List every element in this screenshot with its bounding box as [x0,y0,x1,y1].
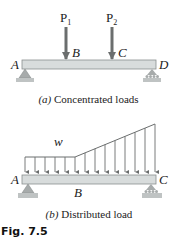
beam-figure: P1 P2 B C A D (a) Concentr [0,0,177,239]
load-p1: P1 [60,10,71,60]
point-d-label: D [158,57,169,72]
point-a-label: A [10,57,19,72]
caption-b: (b) Distributed load [46,208,133,221]
pin-support-icon [18,184,38,198]
arrowhead-icon [62,52,70,60]
point-a-label: A [10,172,19,187]
distributed-load-arrows [25,124,155,172]
load-w-label: w [54,134,63,149]
panel-a: P1 P2 B C A D (a) Concentr [10,10,169,106]
caption-a: (a) Concentrated loads [38,93,138,106]
point-c-label: C [118,45,127,60]
load-p1-label: P1 [60,10,71,27]
arrowhead-icon [108,52,116,60]
load-p2-label: P2 [106,10,117,27]
figure-label: Fig. 7.5 [1,225,48,238]
point-b-label: B [72,45,80,60]
panel-b: w A C B [10,124,168,221]
load-envelope [25,124,155,157]
point-b-label: B [74,185,82,200]
load-p2: P2 [106,10,117,60]
point-c-label: C [159,172,168,187]
beam [22,60,156,69]
beam [22,175,156,184]
